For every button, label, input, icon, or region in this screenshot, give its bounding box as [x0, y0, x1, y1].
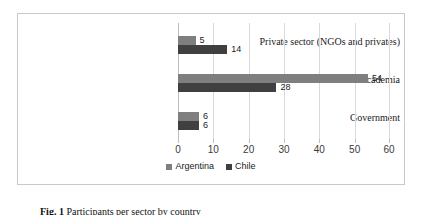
legend-swatch-icon-chile: [226, 164, 232, 170]
figure-caption-label: Fig. 1: [40, 206, 64, 215]
figure-caption: Fig. 1 Participants per sector by countr…: [40, 206, 380, 215]
x-axis: 0 10 20 30 40 50 60: [178, 139, 390, 159]
figure-caption-text: Participants per sector by country: [66, 206, 200, 215]
tick-label-40: 40: [314, 144, 325, 155]
bar-chile-government[interactable]: [178, 121, 199, 130]
bar-argentina-academia[interactable]: [178, 74, 368, 83]
bar-chile-academia[interactable]: [178, 83, 276, 92]
chart-frame: Private sector (NGOs and privates) Acade…: [17, 13, 405, 185]
value-label-chile-academia: 28: [280, 83, 290, 92]
value-label-argentina-academia: 54: [372, 74, 382, 83]
tick-label-20: 20: [243, 144, 254, 155]
bar-chile-private-sector[interactable]: [178, 45, 227, 54]
tick-mark-50: [355, 139, 356, 143]
chart-legend: Argentina Chile: [18, 162, 404, 171]
tick-mark-10: [213, 139, 214, 143]
tick-label-10: 10: [208, 144, 219, 155]
plot-area: 5 14 54 28 6 6: [178, 23, 390, 139]
tick-label-0: 0: [175, 144, 181, 155]
bar-argentina-private-sector[interactable]: [178, 36, 196, 45]
bar-group-academia: 54 28: [178, 74, 390, 94]
value-label-chile-government: 6: [203, 121, 208, 130]
tick-mark-60: [389, 139, 390, 143]
tick-mark-30: [284, 139, 285, 143]
tick-mark-40: [319, 139, 320, 143]
legend-label-chile: Chile: [235, 162, 256, 171]
legend-label-argentina: Argentina: [175, 162, 214, 171]
tick-label-60: 60: [383, 144, 394, 155]
tick-label-30: 30: [278, 144, 289, 155]
legend-swatch-icon-argentina: [166, 164, 172, 170]
legend-entry-argentina[interactable]: Argentina: [166, 162, 214, 171]
bar-group-government: 6 6: [178, 112, 390, 132]
tick-mark-0: [178, 139, 179, 143]
bar-argentina-government[interactable]: [178, 112, 199, 121]
figure-container: Private sector (NGOs and privates) Acade…: [0, 0, 424, 215]
bar-group-private-sector: 5 14: [178, 36, 390, 56]
value-label-argentina-private-sector: 5: [200, 36, 205, 45]
tick-mark-20: [249, 139, 250, 143]
tick-label-50: 50: [349, 144, 360, 155]
value-label-chile-private-sector: 14: [231, 45, 241, 54]
legend-entry-chile[interactable]: Chile: [226, 162, 256, 171]
